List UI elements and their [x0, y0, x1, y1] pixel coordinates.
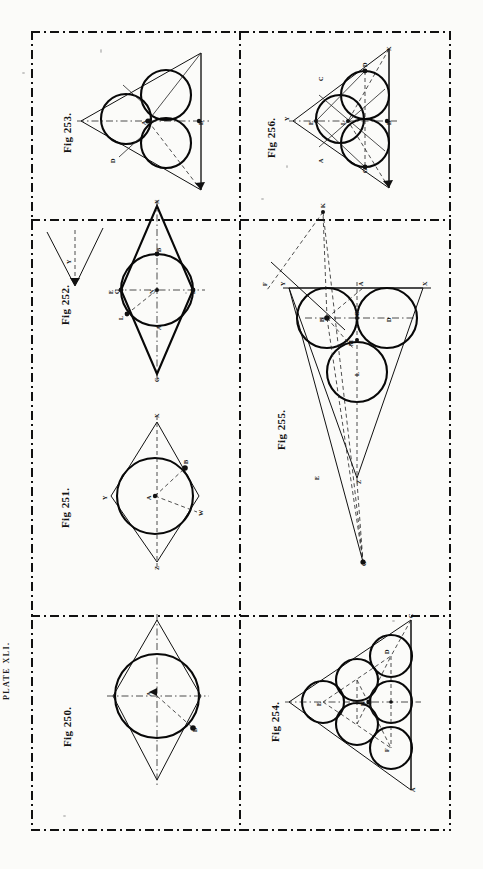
figure-cell-252: Fig 252. Y X G B A N D C E — [33, 190, 238, 390]
fig-252-drawing: Y X G B A N D C E L — [33, 190, 238, 390]
svg-text:B: B — [197, 121, 204, 125]
svg-text:C: C — [353, 312, 360, 316]
svg-text:B: B — [385, 121, 392, 125]
svg-text:E: E — [107, 290, 114, 294]
fig-256-drawing: X Y B D G L E C A — [245, 33, 450, 188]
svg-text:Y: Y — [65, 259, 72, 264]
svg-text:D: D — [383, 649, 390, 654]
svg-text:A: A — [145, 495, 152, 500]
svg-text:B: B — [155, 248, 162, 252]
figure-cell-256: Fig 256. X Y B D G L — [245, 33, 450, 188]
plate-page: Plate XLI. Fig 253. — [0, 0, 483, 869]
svg-text:L: L — [117, 316, 124, 320]
svg-text:E: E — [313, 476, 320, 480]
figure-cell-250: Fig 250. A B — [33, 592, 238, 830]
svg-text:D: D — [361, 62, 368, 67]
frame-column-divider — [239, 31, 241, 831]
scan-speck — [392, 620, 395, 622]
plate-label: Plate XLI. — [2, 642, 11, 700]
scan-speck — [22, 72, 25, 74]
svg-text:K: K — [319, 203, 326, 208]
svg-text:A: A — [317, 158, 324, 163]
figure-cell-251: Fig 251. X Z Y W B A — [33, 400, 238, 586]
svg-text:B: B — [182, 460, 189, 464]
fig-253-drawing: B A D — [33, 33, 238, 188]
scan-speck — [286, 165, 288, 168]
svg-text:B: B — [359, 702, 366, 706]
svg-text:G: G — [153, 377, 160, 382]
figure-cell-255: Fig 255. — [245, 190, 450, 586]
svg-text:X: X — [421, 281, 428, 286]
svg-text:Y: Y — [101, 495, 108, 500]
svg-text:B: B — [191, 728, 198, 732]
svg-text:W: W — [197, 509, 204, 516]
svg-text:B: B — [318, 318, 325, 322]
svg-text:C: C — [407, 614, 414, 618]
svg-text:N: N — [148, 289, 155, 294]
svg-text:C: C — [113, 290, 120, 294]
svg-text:A: A — [155, 325, 162, 330]
svg-text:X: X — [153, 413, 160, 418]
svg-text:A: A — [357, 281, 364, 286]
scan-speck — [261, 198, 264, 200]
fig-250-drawing: A B — [33, 592, 238, 830]
fig-255-drawing: K X Y Z G A B C D F E L M — [245, 190, 450, 586]
svg-text:A: A — [409, 787, 416, 792]
svg-text:L: L — [353, 372, 360, 376]
fig-251-drawing: X Z Y W B A — [33, 400, 238, 586]
svg-text:A: A — [145, 691, 152, 696]
svg-text:Z: Z — [153, 566, 160, 570]
svg-text:X: X — [385, 46, 392, 51]
scan-speck — [100, 49, 102, 53]
figure-cell-253: Fig 253. B A D — [33, 33, 238, 188]
svg-text:G: G — [361, 168, 368, 173]
svg-text:A: A — [140, 120, 147, 125]
svg-text:D: D — [189, 289, 196, 294]
svg-text:Y: Y — [283, 116, 290, 121]
svg-text:C: C — [317, 77, 324, 81]
svg-text:L: L — [339, 121, 346, 125]
svg-text:E: E — [307, 121, 314, 125]
svg-text:F: F — [383, 748, 390, 752]
svg-text:X: X — [153, 199, 160, 204]
fig-254-drawing: C A E B D F — [245, 592, 450, 830]
svg-text:Y: Y — [279, 281, 286, 286]
scan-speck — [185, 292, 187, 294]
svg-text:E: E — [315, 702, 322, 706]
svg-text:D: D — [109, 158, 116, 163]
svg-text:M: M — [347, 340, 354, 346]
svg-text:G: G — [360, 561, 367, 566]
figure-cell-254: Fig 254. C A E B D — [245, 592, 450, 830]
svg-text:D: D — [385, 317, 392, 322]
svg-text:F: F — [261, 282, 268, 286]
svg-text:Z: Z — [355, 480, 362, 484]
scan-speck — [63, 815, 66, 817]
